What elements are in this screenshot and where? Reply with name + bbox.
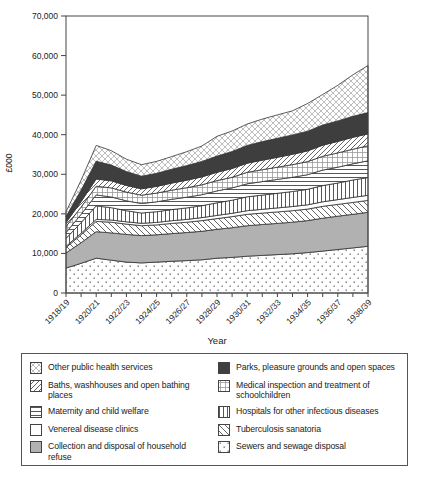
legend-label: Maternity and child welfare bbox=[48, 406, 149, 417]
x-axis-title: Year bbox=[207, 335, 226, 346]
legend-label: Hospitals for other infectious diseases bbox=[236, 406, 378, 417]
x-tick-label: 1930/31 bbox=[224, 297, 253, 326]
legend-column-right: Parks, pleasure grounds and open spacesM… bbox=[218, 362, 404, 459]
x-tick-label: 1926/27 bbox=[163, 297, 192, 326]
legend-item: Venereal disease clinics bbox=[30, 424, 210, 436]
legend-swatch-hlines-icon bbox=[30, 406, 42, 418]
legend-label: Sewers and sewage disposal bbox=[236, 441, 346, 452]
x-tick-label: 1918/19 bbox=[43, 297, 72, 326]
y-tick-label: 30,000 bbox=[32, 169, 58, 179]
legend-label: Tuberculosis sanatoria bbox=[236, 424, 321, 435]
legend-item: Collection and disposal of household ref… bbox=[30, 441, 210, 462]
y-tick-label: 0 bbox=[53, 288, 58, 298]
legend-item: Sewers and sewage disposal bbox=[218, 441, 404, 453]
legend-label: Collection and disposal of household ref… bbox=[48, 441, 210, 462]
stacked-area-chart: 010,00020,00030,00040,00050,00060,00070,… bbox=[0, 0, 424, 348]
x-tick-label: 1932/33 bbox=[254, 297, 283, 326]
x-tick-label: 1936/37 bbox=[314, 297, 343, 326]
legend-label: Venereal disease clinics bbox=[48, 424, 138, 435]
legend-item: Other public health services bbox=[30, 362, 210, 374]
x-tick-label: 1920/21 bbox=[73, 297, 102, 326]
legend-label: Other public health services bbox=[48, 362, 152, 373]
y-tick-label: 10,000 bbox=[32, 248, 58, 258]
y-tick-label: 40,000 bbox=[32, 130, 58, 140]
legend-swatch-plain-icon bbox=[30, 424, 42, 436]
y-tick-label: 20,000 bbox=[32, 209, 58, 219]
y-tick-label: 60,000 bbox=[32, 51, 58, 61]
x-tick-label: 1934/35 bbox=[284, 297, 313, 326]
legend-item: Tuberculosis sanatoria bbox=[218, 424, 404, 436]
legend-swatch-vlines-icon bbox=[218, 406, 230, 418]
legend-item: Medical inspection and treatment of scho… bbox=[218, 380, 404, 401]
legend-swatch-solid-dark-icon bbox=[218, 362, 230, 374]
legend-swatch-diag-back-icon bbox=[218, 424, 230, 436]
legend-swatch-solid-gray-icon bbox=[30, 441, 42, 453]
legend-item: Parks, pleasure grounds and open spaces bbox=[218, 362, 404, 374]
legend-swatch-diag-fwd-icon bbox=[30, 380, 42, 392]
legend-label: Medical inspection and treatment of scho… bbox=[236, 380, 404, 401]
chart-areas bbox=[66, 66, 368, 294]
figure: 010,00020,00030,00040,00050,00060,00070,… bbox=[0, 0, 424, 482]
legend-item: Hospitals for other infectious diseases bbox=[218, 406, 404, 418]
legend-label: Baths, washhouses and open bathing place… bbox=[48, 380, 210, 401]
x-tick-label: 1938/39 bbox=[345, 297, 374, 326]
x-tick-label: 1922/23 bbox=[103, 297, 132, 326]
x-tick-label: 1924/25 bbox=[133, 297, 162, 326]
y-axis-title: £000 bbox=[4, 153, 14, 172]
legend-label: Parks, pleasure grounds and open spaces bbox=[236, 362, 395, 373]
legend-item: Baths, washhouses and open bathing place… bbox=[30, 380, 210, 401]
legend: Other public health servicesBaths, washh… bbox=[21, 353, 408, 466]
legend-column-left: Other public health servicesBaths, washh… bbox=[30, 362, 210, 468]
legend-swatch-diamond-mesh-icon bbox=[30, 362, 42, 374]
legend-swatch-grid-icon bbox=[218, 380, 230, 392]
y-tick-label: 70,000 bbox=[32, 11, 58, 21]
y-tick-label: 50,000 bbox=[32, 90, 58, 100]
legend-swatch-dots-icon bbox=[218, 441, 230, 453]
legend-item: Maternity and child welfare bbox=[30, 406, 210, 418]
x-tick-label: 1928/29 bbox=[194, 297, 223, 326]
